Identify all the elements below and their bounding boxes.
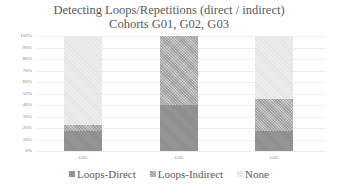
bar-segment-loops-direct — [255, 131, 293, 151]
bar-g03 — [255, 36, 293, 151]
legend-item-loops-indirect: Loops-Indirect — [150, 168, 223, 180]
y-tick-label: 80% — [6, 56, 32, 62]
bar-segment-none — [255, 36, 293, 99]
x-tick-label: G03 — [255, 155, 293, 161]
legend-swatch-icon — [69, 171, 75, 177]
legend: Loops-DirectLoops-IndirectNone — [0, 168, 338, 180]
legend-swatch-icon — [237, 171, 243, 177]
legend-item-none: None — [237, 168, 269, 180]
y-tick-label: 40% — [6, 102, 32, 108]
y-tick-label: 70% — [6, 68, 32, 74]
plot-area: 0%10%20%30%40%50%60%70%80%90%100%G01G02G… — [0, 0, 338, 187]
legend-label: Loops-Direct — [77, 168, 136, 180]
legend-label: Loops-Indirect — [158, 168, 223, 180]
y-tick-label: 60% — [6, 79, 32, 85]
x-tick-label: G02 — [160, 155, 198, 161]
legend-swatch-icon — [150, 171, 156, 177]
legend-item-loops-direct: Loops-Direct — [69, 168, 136, 180]
y-tick-label: 10% — [6, 137, 32, 143]
gridline — [36, 151, 326, 152]
bar-segment-none — [64, 36, 102, 125]
bar-segment-loops-indirect — [64, 125, 102, 132]
y-tick-label: 30% — [6, 114, 32, 120]
bar-g01 — [64, 36, 102, 151]
y-tick-label: 20% — [6, 125, 32, 131]
y-tick-label: 100% — [6, 33, 32, 39]
y-tick-label: 90% — [6, 45, 32, 51]
bar-segment-loops-indirect — [255, 99, 293, 131]
bar-segment-loops-direct — [64, 131, 102, 151]
y-tick-label: 50% — [6, 91, 32, 97]
bar-segment-loops-direct — [160, 105, 198, 151]
legend-label: None — [245, 168, 269, 180]
bar-segment-loops-indirect — [160, 36, 198, 105]
bar-g02 — [160, 36, 198, 151]
x-tick-label: G01 — [64, 155, 102, 161]
y-tick-label: 0% — [6, 148, 32, 154]
